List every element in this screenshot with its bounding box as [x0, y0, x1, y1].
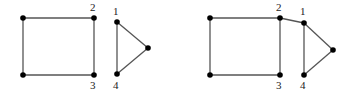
vertex — [114, 19, 120, 25]
edge — [304, 23, 333, 50]
vertex — [114, 71, 120, 77]
vertex — [20, 72, 26, 78]
vertex — [91, 15, 97, 21]
vertex-label: 1 — [113, 5, 119, 17]
vertex — [145, 45, 151, 51]
edge — [117, 22, 148, 48]
edge — [117, 48, 148, 74]
vertex — [91, 72, 97, 78]
vertex — [277, 72, 283, 78]
vertex — [20, 15, 26, 21]
vertex — [301, 72, 307, 78]
vertex — [330, 47, 336, 53]
left-graph: 2314 — [20, 1, 151, 91]
edge — [304, 50, 333, 75]
vertex-label: 2 — [276, 1, 282, 13]
edge — [280, 18, 304, 23]
vertex-label: 4 — [113, 79, 119, 91]
vertex — [277, 15, 283, 21]
vertex — [207, 15, 213, 21]
vertex-label: 3 — [276, 79, 282, 91]
vertex-label: 4 — [300, 79, 306, 91]
right-graph: 2314 — [207, 1, 336, 91]
vertex — [301, 20, 307, 26]
vertex-label: 1 — [300, 5, 306, 17]
vertex-label: 2 — [90, 1, 96, 13]
vertex — [207, 72, 213, 78]
vertex-label: 3 — [90, 79, 96, 91]
graph-diagram: 23142314 — [0, 0, 356, 94]
